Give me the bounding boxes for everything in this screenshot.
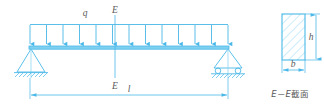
section-label-bottom: E <box>111 81 118 91</box>
roller-left <box>215 68 221 74</box>
section-label-top: E <box>111 5 118 15</box>
span-label: l <box>128 84 131 94</box>
load-arrows <box>30 25 228 44</box>
caption-dash: － <box>277 89 286 99</box>
cross-section-caption: E－E截面 <box>271 89 309 99</box>
cross-section-assembly: h b E－E截面 <box>271 14 320 99</box>
load-label: q <box>83 8 88 18</box>
left-support-pinned <box>14 49 48 78</box>
right-support-roller <box>211 49 245 78</box>
beam-member <box>29 46 229 49</box>
beam-assembly: q E E l <box>14 5 245 99</box>
roller-right <box>235 68 241 74</box>
cross-section-rect <box>282 14 305 60</box>
caption-text: 截面 <box>291 89 309 99</box>
beam-diagram: q E E l h b E－E截面 <box>0 0 324 106</box>
section-width-label: b <box>291 59 296 69</box>
figure-container: q E E l h b E－E截面 <box>0 0 324 106</box>
section-height-label: h <box>309 32 314 42</box>
